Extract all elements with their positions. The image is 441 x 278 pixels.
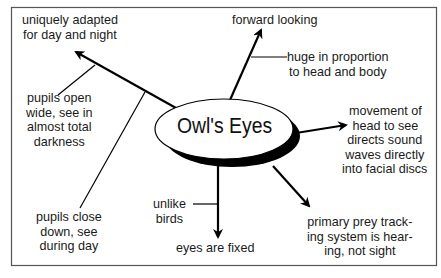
label-adapted: uniquely adapted for day and night — [22, 13, 118, 42]
diagram-title: Owl's Eyes — [177, 113, 272, 139]
label-huge: huge in proportion to head and body — [287, 50, 389, 79]
label-unlike: unlike birds — [153, 197, 186, 226]
label-prey: primary prey track- ing system is hear- … — [307, 215, 413, 259]
label-forward: forward looking — [232, 13, 317, 28]
label-pupils-open: pupils open wide, see in almost total da… — [26, 91, 93, 149]
label-movement: movement of head to see — [349, 104, 422, 133]
label-pupils-close: pupils close down, see during day — [36, 210, 102, 254]
label-sound: directs sound waves directly into facial… — [342, 133, 427, 177]
label-fixed: eyes are fixed — [176, 241, 254, 256]
